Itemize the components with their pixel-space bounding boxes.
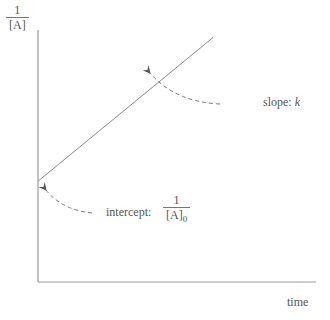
y-axis-label: 1 [A] xyxy=(6,4,29,32)
slope-symbol: k xyxy=(295,95,300,109)
intercept-subscript: 0 xyxy=(183,214,188,224)
intercept-annotation-arrow xyxy=(46,190,92,213)
intercept-denominator: [A]0 xyxy=(163,207,190,226)
x-axis-label: time xyxy=(287,295,308,310)
slope-annotation-arrow xyxy=(150,73,220,104)
intercept-numerator: 1 xyxy=(163,194,190,207)
slope-annotation: slope: k xyxy=(263,95,300,110)
y-axis-label-denominator: [A] xyxy=(6,17,29,32)
series-line xyxy=(38,38,213,182)
slope-label: slope: xyxy=(263,95,292,109)
chart-canvas xyxy=(0,0,330,320)
series-layer xyxy=(38,38,213,182)
y-axis-label-numerator: 1 xyxy=(6,4,29,17)
intercept-fraction: 1 [A]0 xyxy=(163,194,190,226)
intercept-annotation-label: intercept: xyxy=(106,205,151,220)
intercept-denominator-text: [A] xyxy=(166,208,183,222)
